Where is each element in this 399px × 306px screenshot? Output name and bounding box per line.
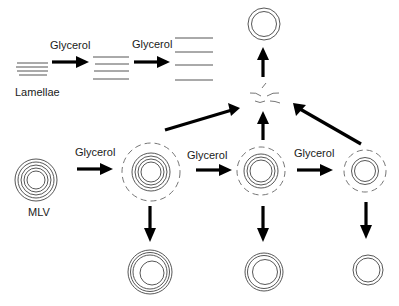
arrow-vesicle-2-to-fusion xyxy=(257,111,269,140)
mlv-label: MLV xyxy=(28,206,50,218)
vesicle-1 xyxy=(122,143,180,201)
arrow-vesicle-3-to-bottom-3 xyxy=(360,202,372,239)
arrow-vesicle-1-to-fusion xyxy=(165,103,240,130)
arrow-vesicle-3-to-fusion xyxy=(293,103,361,144)
arrow-vesicle-2-to-bottom-2 xyxy=(257,206,269,242)
top-vesicle xyxy=(248,8,280,40)
mlv xyxy=(15,159,57,201)
lamellae-label: Lamellae xyxy=(15,86,60,98)
glycerol-label-2: Glycerol xyxy=(132,38,172,50)
bottom-vesicle-1 xyxy=(128,250,172,294)
vesicle-2 xyxy=(237,147,285,195)
arrow-vesicle-2-to-3 xyxy=(297,164,333,176)
bottom-vesicle-3 xyxy=(353,255,383,285)
glycerol-label-1: Glycerol xyxy=(50,39,90,51)
arrow-vesicle-1-to-2 xyxy=(196,164,232,176)
lamellae-2 xyxy=(93,57,129,79)
bottom-vesicle-2 xyxy=(245,253,283,291)
lamellae-3 xyxy=(175,38,213,80)
arrow-mlv-to-vesicle-1 xyxy=(77,163,113,175)
glycerol-label-4: Glycerol xyxy=(187,149,227,161)
arrow-fusion-to-top-vesicle xyxy=(257,47,269,77)
glycerol-label-5: Glycerol xyxy=(294,147,334,159)
diagram-canvas: Lamellae Glycerol Glycerol xyxy=(0,0,399,306)
lamellae-1 xyxy=(16,63,48,75)
fusion-fragments xyxy=(250,83,280,103)
arrow-lamellae-1-to-2 xyxy=(52,56,89,68)
glycerol-label-3: Glycerol xyxy=(75,146,115,158)
arrow-lamellae-2-to-3 xyxy=(134,56,170,68)
vesicle-3 xyxy=(344,150,386,192)
arrow-vesicle-1-to-bottom-1 xyxy=(144,206,156,242)
